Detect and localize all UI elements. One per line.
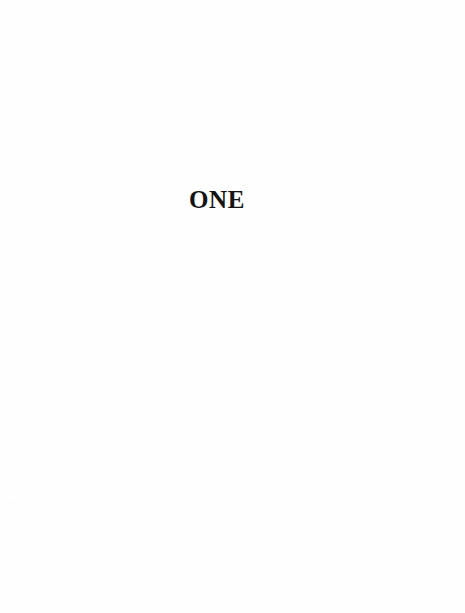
chapter-heading: ONE (0, 186, 434, 214)
chapter-heading-label: ONE (189, 186, 245, 214)
scanned-page: ONE (0, 0, 465, 613)
